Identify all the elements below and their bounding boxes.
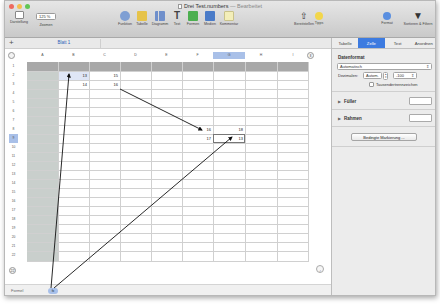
border-style-swatch[interactable] [409, 114, 432, 122]
fill-section-toggle[interactable]: ▶Füller [338, 99, 356, 104]
sheet-tab-divider [100, 39, 101, 48]
thousands-separator-label: Tausendertrennzeichen [376, 82, 418, 87]
column-header-c[interactable]: C [89, 52, 120, 59]
row-header-19[interactable]: 19 [9, 224, 18, 233]
row-header-18[interactable]: 18 [9, 215, 18, 224]
row-header-7[interactable]: 7 [9, 116, 18, 125]
column-header-d[interactable]: D [120, 52, 151, 59]
fill-color-swatch[interactable] [409, 97, 432, 105]
border-brush-icon [410, 121, 432, 122]
toolbar-zoom-select[interactable]: 125 % Zoomen [33, 11, 59, 27]
row-header-9[interactable]: 9 [9, 134, 18, 143]
sidebar-divider [332, 146, 436, 147]
disclosure-triangle-icon: ▶ [338, 117, 341, 121]
decimals-field[interactable]: Autom. [363, 72, 382, 79]
row-header-20[interactable]: 20 [9, 233, 18, 242]
add-row-button[interactable]: 22 [9, 267, 16, 274]
select-arrows-icon: ⇕ [426, 64, 429, 70]
row-header-5[interactable]: 5 [9, 98, 18, 107]
toolbar-sort-filter-button[interactable]: ▼ Sortieren & Filtern [401, 11, 435, 26]
column-header-g[interactable]: G [213, 52, 245, 59]
sidebar-tabs: Tabelle Zelle Text Anordnen [332, 38, 436, 49]
cell-c3[interactable]: 16 [89, 80, 118, 89]
cell-c2[interactable]: 15 [89, 71, 118, 80]
select-arrows-icon: ⇕ [411, 73, 414, 79]
sidebar-divider [332, 91, 436, 92]
view-icon [15, 11, 24, 19]
no-fill-slash-icon [410, 104, 432, 105]
sidebar-tab-text[interactable]: Text [385, 38, 411, 48]
conditional-highlighting-button[interactable]: Bedingte Markierung ... [351, 133, 417, 141]
row-header-6[interactable]: 6 [9, 107, 18, 116]
sheet-tab-bar: + Blatt 1 [5, 38, 331, 49]
column-header-a[interactable]: A [27, 52, 58, 59]
cell-b2[interactable]: 13 [58, 71, 87, 80]
data-format-title: Datenformat [338, 55, 365, 60]
add-column-button[interactable]: ǁ [307, 52, 314, 59]
column-header-i[interactable]: I [277, 52, 309, 59]
filter-icon: ▼ [413, 11, 423, 21]
sheet-tab-blatt-1[interactable]: Blatt 1 [39, 38, 89, 48]
table-resize-handle[interactable]: ⌟ [316, 265, 324, 273]
sidebar-tab-zelle[interactable]: Zelle [358, 38, 384, 48]
row-header-2[interactable]: 2 [9, 71, 18, 80]
row-header-15[interactable]: 15 [9, 188, 18, 197]
column-header-b[interactable]: B [58, 52, 89, 59]
row-header-13[interactable]: 13 [9, 170, 18, 179]
formula-footer: Formel fx [5, 284, 331, 296]
format-sidebar: Tabelle Zelle Text Anordnen Datenformat … [331, 38, 436, 296]
table-select-all-handle[interactable] [8, 52, 15, 59]
tips-icon [315, 12, 323, 20]
row-header-4[interactable]: 4 [9, 89, 18, 98]
document-icon [178, 4, 182, 9]
row-header-17[interactable]: 17 [9, 206, 18, 215]
row-header-8[interactable]: 8 [9, 125, 18, 134]
toolbar: Drei Test.numbers — Bearbeitet Darstellu… [5, 1, 435, 38]
sidebar-divider [332, 126, 436, 127]
toolbar-format-button[interactable]: Format [374, 11, 400, 25]
cell-g9[interactable]: 13 [213, 134, 243, 143]
toolbar-kommentar-button[interactable]: Kommentar [216, 11, 242, 26]
sidebar-tab-anordnen[interactable]: Anordnen [411, 38, 436, 48]
toolbar-darstellung-button[interactable]: Darstellung [6, 11, 32, 24]
decimals-label: Dezimalen: [338, 73, 358, 78]
row-header-21[interactable]: 21 [9, 242, 18, 251]
data-table[interactable]: 13 15 14 16 16 18 17 13 [27, 62, 309, 262]
cell-b3[interactable]: 14 [58, 80, 87, 89]
footer-badge[interactable]: fx [48, 288, 58, 294]
column-header-h[interactable]: H [245, 52, 277, 59]
sidebar-divider [332, 109, 436, 110]
disclosure-triangle-icon: ▶ [338, 100, 341, 104]
decimals-stepper[interactable]: ▴▾ [383, 72, 388, 80]
add-sheet-button[interactable]: + [9, 38, 14, 48]
row-header-16[interactable]: 16 [9, 197, 18, 206]
thousands-separator-checkbox[interactable] [369, 82, 374, 87]
sidebar-tab-tabelle[interactable]: Tabelle [332, 38, 358, 48]
row-header-3[interactable]: 3 [9, 80, 18, 89]
row-header-1[interactable]: 1 [9, 62, 18, 71]
cell-f8[interactable]: 16 [182, 125, 211, 134]
zoom-dropdown[interactable]: 125 % [36, 13, 56, 20]
column-header-f[interactable]: F [182, 52, 213, 59]
cell-g8[interactable]: 18 [213, 125, 243, 134]
media-icon [205, 11, 215, 21]
row-header-14[interactable]: 14 [9, 179, 18, 188]
data-format-select[interactable]: Automatisch⇕ [337, 63, 432, 70]
row-header-10[interactable]: 10 [9, 143, 18, 152]
table-header-row [27, 62, 309, 71]
toolbar-tipps-button[interactable]: Tipps [306, 11, 332, 25]
row-header-11[interactable]: 11 [9, 152, 18, 161]
row-header-12[interactable]: 12 [9, 161, 18, 170]
footer-label: Formel [11, 288, 23, 293]
numbers-window: Drei Test.numbers — Bearbeitet Darstellu… [4, 0, 436, 296]
table-icon [137, 11, 147, 21]
cell-f9[interactable]: 17 [182, 134, 211, 143]
comment-icon [224, 11, 234, 21]
border-section-toggle[interactable]: ▶Rahmen [338, 116, 362, 121]
column-header-e[interactable]: E [151, 52, 182, 59]
window-title: Drei Test.numbers — Bearbeitet [5, 3, 435, 9]
row-header-22[interactable]: 22 [9, 251, 18, 260]
format-icon [383, 12, 391, 20]
sheet-canvas[interactable]: A B C D E F G H I ǁ 1 2 3 4 5 6 7 8 9 10… [5, 49, 331, 284]
negative-format-select[interactable]: -100⇕ [393, 72, 417, 79]
